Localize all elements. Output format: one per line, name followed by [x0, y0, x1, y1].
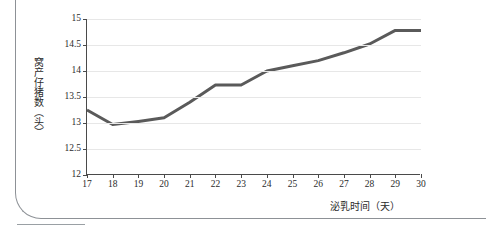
x-tick-label: 19 — [134, 180, 144, 190]
x-tick-mark — [344, 174, 345, 178]
y-tick-label: 12.5 — [64, 144, 81, 154]
x-tick-label: 17 — [82, 180, 92, 190]
x-tick-mark — [138, 174, 139, 178]
y-tick-label: 13 — [72, 118, 82, 128]
x-tick-label: 24 — [262, 180, 272, 190]
y-tick-mark — [83, 97, 87, 98]
x-axis-title: 泌乳时间（天） — [330, 198, 400, 213]
x-tick-mark — [318, 174, 319, 178]
y-tick-label: 12 — [72, 170, 82, 180]
y-tick-mark — [83, 71, 87, 72]
y-tick-label: 15 — [72, 14, 82, 24]
x-tick-mark — [267, 174, 268, 178]
x-tick-label: 21 — [185, 180, 195, 190]
x-tick-mark — [241, 174, 242, 178]
x-tick-mark — [164, 174, 165, 178]
x-tick-label: 26 — [313, 180, 323, 190]
y-gridline — [87, 45, 421, 46]
y-tick-mark — [83, 123, 87, 124]
y-gridline — [87, 97, 421, 98]
x-tick-label: 22 — [211, 180, 221, 190]
y-gridline — [87, 123, 421, 124]
x-tick-label: 28 — [365, 180, 375, 190]
x-tick-mark — [113, 174, 114, 178]
x-tick-mark — [215, 174, 216, 178]
x-tick-label: 30 — [416, 180, 426, 190]
plot-area: 1212.51313.51414.51517181920212223242526… — [86, 19, 420, 175]
x-tick-label: 25 — [288, 180, 298, 190]
y-tick-label: 14 — [72, 66, 82, 76]
y-gridline — [87, 71, 421, 72]
y-tick-mark — [83, 45, 87, 46]
y-tick-label: 14.5 — [64, 40, 81, 50]
y-axis-title: 窝产仔猪数（头） — [30, 57, 45, 137]
x-tick-mark — [395, 174, 396, 178]
y-tick-mark — [83, 149, 87, 150]
y-gridline — [87, 19, 421, 20]
y-tick-label: 13.5 — [64, 92, 81, 102]
x-tick-label: 18 — [108, 180, 118, 190]
x-tick-label: 27 — [339, 180, 349, 190]
x-tick-mark — [87, 174, 88, 178]
x-tick-mark — [421, 174, 422, 178]
x-tick-mark — [190, 174, 191, 178]
x-tick-label: 23 — [236, 180, 246, 190]
y-gridline — [87, 149, 421, 150]
x-tick-label: 29 — [391, 180, 401, 190]
x-tick-mark — [293, 174, 294, 178]
x-tick-label: 20 — [159, 180, 169, 190]
y-tick-mark — [83, 19, 87, 20]
x-tick-mark — [370, 174, 371, 178]
